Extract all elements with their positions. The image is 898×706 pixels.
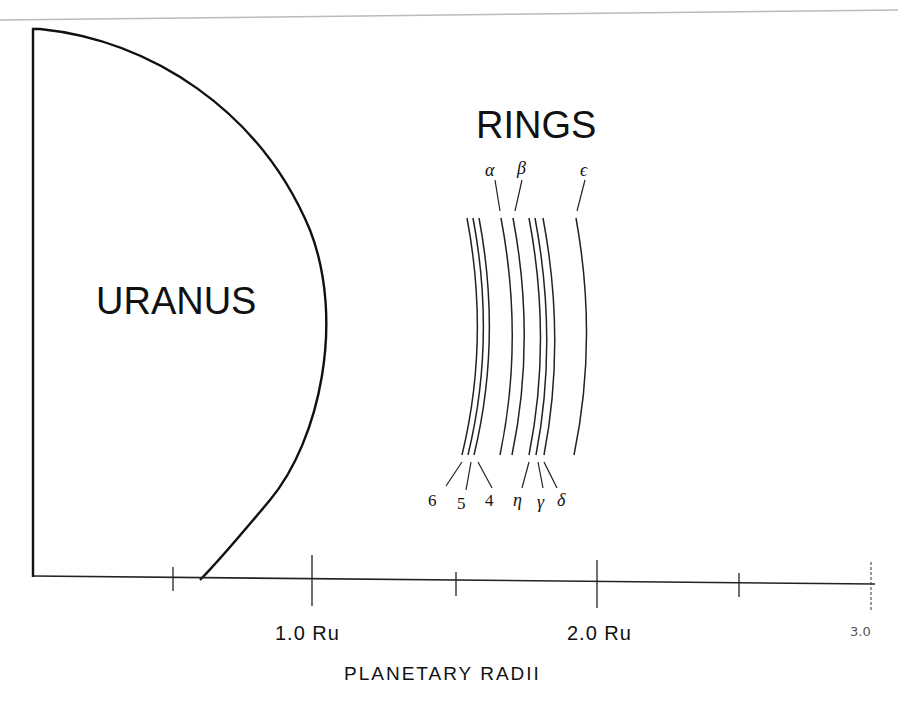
ring-4: [474, 218, 489, 455]
ring-eta: [529, 218, 541, 455]
ring-label-eta: η: [513, 490, 522, 511]
ring-delta: [543, 218, 555, 455]
ring-label-beta: β: [517, 158, 526, 179]
ring-label-4: 4: [485, 491, 494, 511]
ring-label-alpha: α: [485, 160, 494, 181]
tick-label-3: 3.0: [850, 624, 871, 639]
ring-label-gamma: γ: [537, 492, 544, 513]
ring-arcs: [462, 218, 587, 455]
ring-label-5: 5: [457, 494, 466, 514]
x-axis-line: [33, 576, 875, 584]
ring-label-epsilon: ϵ: [580, 160, 587, 181]
axis-title: PLANETARY RADII: [344, 663, 541, 685]
leader-lines-bottom: [446, 462, 557, 490]
ring-label-delta: δ: [557, 490, 565, 511]
ring-alpha: [500, 218, 512, 455]
uranus-label: URANUS: [96, 280, 256, 323]
rings-diagram: [0, 0, 898, 706]
ring-beta: [512, 218, 524, 455]
leader-lines-top: [495, 180, 585, 211]
top-border-line: [0, 10, 898, 20]
ring-label-6: 6: [428, 491, 437, 511]
ring-epsilon: [574, 218, 587, 455]
tick-label-1: 1.0 Ru: [275, 622, 340, 645]
rings-label: RINGS: [476, 104, 596, 147]
tick-label-2: 2.0 Ru: [567, 622, 632, 645]
